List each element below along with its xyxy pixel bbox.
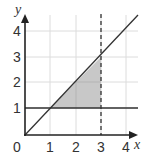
y-axis-arrow-icon — [21, 14, 29, 23]
y-tick-3: 3 — [13, 49, 21, 65]
y-tick-1: 1 — [13, 100, 21, 116]
y-tick-4: 4 — [13, 23, 21, 39]
x-axis-label: x — [133, 137, 141, 152]
line-y-equals-x — [25, 15, 138, 135]
y-axis-label: y — [13, 2, 22, 17]
chart: 0 1 2 3 4 x 1 2 3 4 y — [0, 0, 148, 157]
x-tick-4: 4 — [122, 139, 130, 155]
origin-label: 0 — [13, 139, 21, 155]
x-tick-2: 2 — [72, 139, 80, 155]
y-tick-2: 2 — [13, 74, 21, 90]
x-tick-3: 3 — [97, 139, 105, 155]
x-tick-1: 1 — [46, 139, 54, 155]
